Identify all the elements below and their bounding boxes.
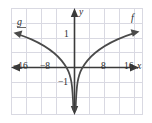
y-tick-label-neg1: −1 bbox=[58, 78, 68, 88]
x-tick-label-neg8: −8 bbox=[40, 62, 50, 72]
x-tick-label-neg16: −16 bbox=[13, 62, 28, 72]
y-axis-name: y bbox=[79, 8, 83, 18]
y-tick-label-1: 1 bbox=[64, 30, 69, 40]
x-axis-name: x bbox=[137, 62, 141, 72]
curve-label-g: g bbox=[17, 17, 22, 27]
curve-label-f: f bbox=[131, 13, 134, 23]
x-tick-label-8: 8 bbox=[101, 62, 106, 72]
graph-figure: −16 −8 8 16 1 −1 y x g f bbox=[0, 0, 152, 123]
x-tick-label-16: 16 bbox=[124, 62, 134, 72]
